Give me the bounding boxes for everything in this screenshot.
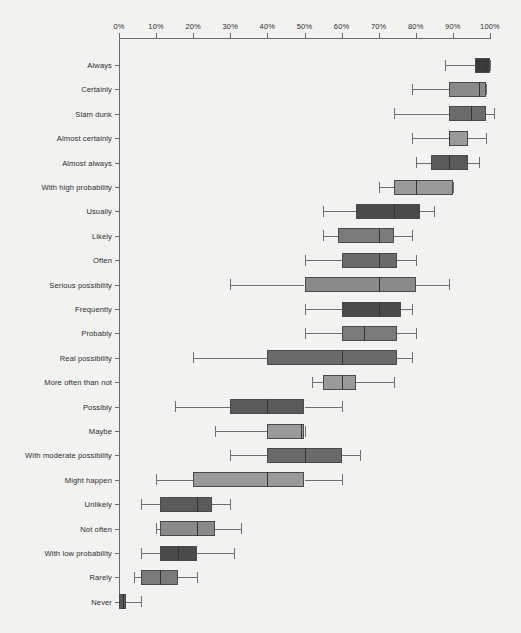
whisker-high-cap — [479, 157, 480, 168]
y-tick-label: Probably — [81, 329, 112, 338]
median-line — [342, 375, 343, 390]
whisker-low-cap — [416, 157, 417, 168]
box-iqr — [338, 228, 394, 243]
whisker-low-line — [230, 285, 304, 286]
whisker-low-line — [156, 480, 193, 481]
whisker-high-cap — [494, 108, 495, 119]
whisker-high-line — [342, 455, 361, 456]
y-tick-label: Almost certainly — [57, 134, 112, 143]
whisker-high-line — [486, 114, 493, 115]
whisker-high-line — [178, 577, 197, 578]
y-tick-label: Unlikely — [85, 500, 112, 509]
box-plot-chart: 0%10%20%30%40%50%60%70%80%90%100% Always… — [0, 0, 521, 633]
y-tick-label: With high probability — [42, 183, 112, 192]
x-tick-label: 80% — [408, 22, 424, 31]
x-tick-mark — [305, 33, 306, 38]
whisker-low-cap — [134, 572, 135, 583]
y-tick-mark — [115, 480, 119, 481]
whisker-high-cap — [342, 474, 343, 485]
y-tick-mark — [115, 114, 119, 115]
median-line — [301, 424, 302, 439]
y-tick-mark — [115, 138, 119, 139]
x-tick-label: 50% — [297, 22, 313, 31]
x-tick-mark — [453, 33, 454, 38]
median-line — [379, 228, 380, 243]
whisker-low-cap — [323, 230, 324, 241]
x-tick-label: 10% — [148, 22, 164, 31]
box-iqr — [305, 277, 416, 292]
whisker-high-line — [468, 138, 487, 139]
y-tick-label: Might happen — [65, 475, 112, 484]
box-iqr — [475, 58, 490, 73]
median-line — [379, 302, 380, 317]
box-iqr — [394, 180, 453, 195]
whisker-low-cap — [230, 279, 231, 290]
median-line — [305, 448, 306, 463]
median-line — [394, 204, 395, 219]
median-line — [342, 350, 343, 365]
whisker-low-cap — [156, 474, 157, 485]
whisker-low-line — [141, 504, 160, 505]
box-iqr — [323, 375, 356, 390]
median-line — [479, 82, 480, 97]
y-tick-label: Likely — [92, 231, 112, 240]
whisker-high-line — [397, 333, 416, 334]
whisker-low-cap — [141, 548, 142, 559]
y-tick-mark — [115, 285, 119, 286]
whisker-low-cap — [312, 377, 313, 388]
whisker-low-cap — [323, 206, 324, 217]
whisker-low-line — [305, 333, 342, 334]
median-line — [379, 253, 380, 268]
y-tick-mark — [115, 358, 119, 359]
whisker-high-line — [126, 602, 141, 603]
whisker-high-cap — [453, 182, 454, 193]
y-tick-mark — [115, 89, 119, 90]
plot-area: 0%10%20%30%40%50%60%70%80%90%100% Always… — [0, 0, 521, 633]
whisker-high-cap — [490, 60, 491, 71]
whisker-low-line — [323, 211, 356, 212]
box-iqr — [160, 497, 212, 512]
box-iqr — [160, 521, 216, 536]
whisker-low-cap — [394, 108, 395, 119]
whisker-low-cap — [156, 523, 157, 534]
box-iqr — [449, 106, 486, 121]
whisker-high-line — [215, 529, 241, 530]
x-tick-mark — [119, 33, 120, 38]
y-tick-label: Often — [93, 256, 112, 265]
whisker-high-cap — [434, 206, 435, 217]
median-line — [267, 472, 268, 487]
whisker-low-cap — [305, 328, 306, 339]
whisker-high-cap — [342, 401, 343, 412]
y-tick-mark — [115, 260, 119, 261]
y-tick-label: Almost always — [62, 158, 112, 167]
whisker-low-line — [193, 358, 267, 359]
whisker-low-line — [379, 187, 394, 188]
x-tick-mark — [379, 33, 380, 38]
y-tick-label: Maybe — [89, 427, 112, 436]
y-tick-mark — [115, 382, 119, 383]
whisker-high-line — [420, 211, 435, 212]
whisker-high-line — [305, 407, 342, 408]
x-tick-mark — [490, 33, 491, 38]
x-tick-mark — [342, 33, 343, 38]
whisker-high-cap — [234, 548, 235, 559]
median-line — [267, 399, 268, 414]
x-tick-label: 90% — [445, 22, 461, 31]
x-tick-mark — [267, 33, 268, 38]
box-iqr — [267, 424, 304, 439]
y-tick-mark — [115, 431, 119, 432]
box-iqr — [449, 82, 486, 97]
whisker-low-line — [305, 309, 342, 310]
y-tick-label: Always — [87, 61, 112, 70]
whisker-high-cap — [412, 230, 413, 241]
median-line — [123, 594, 124, 609]
whisker-high-line — [197, 553, 234, 554]
y-tick-label: Serious possibility — [49, 280, 112, 289]
whisker-high-line — [356, 382, 393, 383]
y-tick-mark — [115, 504, 119, 505]
x-axis-line — [119, 38, 491, 39]
whisker-low-cap — [412, 84, 413, 95]
box-iqr — [342, 326, 398, 341]
whisker-high-line — [468, 163, 479, 164]
whisker-low-cap — [193, 352, 194, 363]
